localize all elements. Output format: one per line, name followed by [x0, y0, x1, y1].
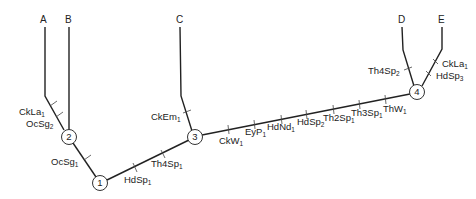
char-label: OcSg2 [26, 119, 53, 132]
char-label: HdSp1 [124, 175, 151, 188]
char-label: EyP1 [245, 127, 266, 140]
char-label: Th3Sp1 [351, 108, 383, 121]
node-2: 2 [61, 129, 77, 145]
char-label: OcSg1 [51, 157, 78, 170]
tip-label-a: A [40, 14, 47, 25]
char-label: ThW1 [383, 104, 407, 117]
char-label: HdSp3 [436, 71, 463, 84]
tip-label-e: E [438, 14, 445, 25]
char-label: CkEm1 [151, 112, 181, 125]
char-label: HdSp2 [297, 117, 324, 130]
char-label: Th4Sp1 [151, 159, 183, 172]
char-label: Th2Sp1 [323, 113, 355, 126]
tip-label-b: B [65, 14, 72, 25]
node-4: 4 [409, 84, 425, 100]
char-label: HdNd1 [267, 122, 295, 135]
tip-label-c: C [176, 14, 183, 25]
node-3: 3 [187, 129, 203, 145]
char-label: Th4Sp2 [368, 66, 400, 79]
tip-label-d: D [398, 14, 405, 25]
char-label: CkW1 [219, 136, 243, 149]
node-1: 1 [92, 175, 108, 191]
